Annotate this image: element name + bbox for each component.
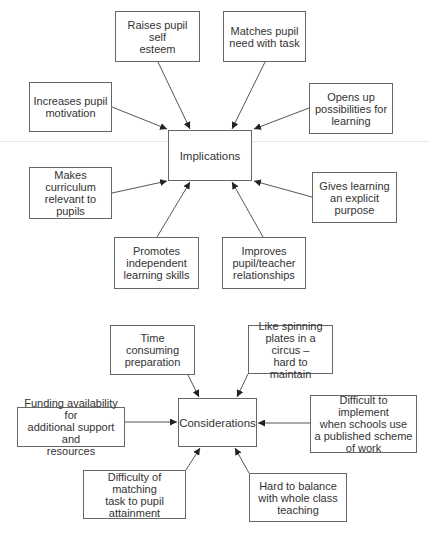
node-label: Like spinning plates in a circus – hard … (252, 320, 329, 380)
arrow-matching-to-considerations (186, 448, 200, 470)
arrow-increases-to-implications (112, 107, 167, 129)
node-matches-need: Matches pupil need with task (223, 11, 306, 62)
node-spinning-plates: Like spinning plates in a circus – hard … (248, 325, 333, 374)
center-considerations: Considerations (178, 398, 257, 447)
node-label: Improves pupil/teacher relationships (233, 245, 296, 281)
center-label: Implications (180, 150, 241, 162)
arrow-improves-to-implications (232, 182, 263, 237)
node-whole-class: Hard to balance with whole class teachin… (249, 473, 347, 522)
node-improves-relationships: Improves pupil/teacher relationships (222, 237, 306, 289)
arrow-makes-to-implications (112, 181, 167, 193)
node-label: Gives learning an explicit purpose (319, 180, 389, 216)
node-makes-curriculum-relevant: Makes curriculum relevant to pupils (29, 167, 112, 219)
arrow-promotes-to-implications (157, 182, 190, 237)
node-label: Makes curriculum relevant to pupils (45, 169, 96, 217)
center-implications: Implications (168, 130, 252, 181)
node-label: Hard to balance with whole class teachin… (258, 480, 337, 516)
node-time-consuming: Time consuming preparation (110, 325, 195, 375)
center-label: Considerations (179, 417, 256, 429)
node-promotes-independent: Promotes independent learning skills (114, 237, 199, 289)
arrow-balance-to-considerations (235, 448, 249, 473)
node-opens-possibilities: Opens up possibilities for learning (309, 83, 393, 134)
arrow-opens-to-implications (254, 108, 309, 129)
node-increases-motivation: Increases pupil motivation (29, 82, 112, 132)
node-label: Promotes independent learning skills (123, 245, 189, 281)
node-gives-explicit-purpose: Gives learning an explicit purpose (312, 172, 397, 223)
node-label: Raises pupil self esteem (119, 19, 196, 55)
node-label: Difficult to implement when schools use … (314, 394, 413, 454)
node-label: Opens up possibilities for learning (315, 91, 387, 127)
arrow-time-to-considerations (188, 375, 199, 397)
node-label: Difficulty of matching task to pupil att… (87, 471, 182, 519)
node-label: Matches pupil need with task (229, 25, 299, 49)
node-label: Time consuming preparation (125, 332, 181, 368)
node-label: Funding availability for additional supp… (21, 397, 121, 457)
node-funding: Funding availability for additional supp… (17, 407, 125, 447)
arrow-spinning-to-considerations (237, 374, 248, 397)
node-raises-self-esteem: Raises pupil self esteem (115, 11, 200, 62)
node-matching-task: Difficulty of matching task to pupil att… (83, 470, 186, 519)
node-label: Increases pupil motivation (34, 95, 108, 119)
arrow-gives-to-implications (254, 181, 312, 197)
node-published-scheme: Difficult to implement when schools use … (310, 395, 417, 453)
arrow-raises-to-implications (158, 62, 190, 129)
arrow-matches-to-implications (232, 62, 265, 129)
